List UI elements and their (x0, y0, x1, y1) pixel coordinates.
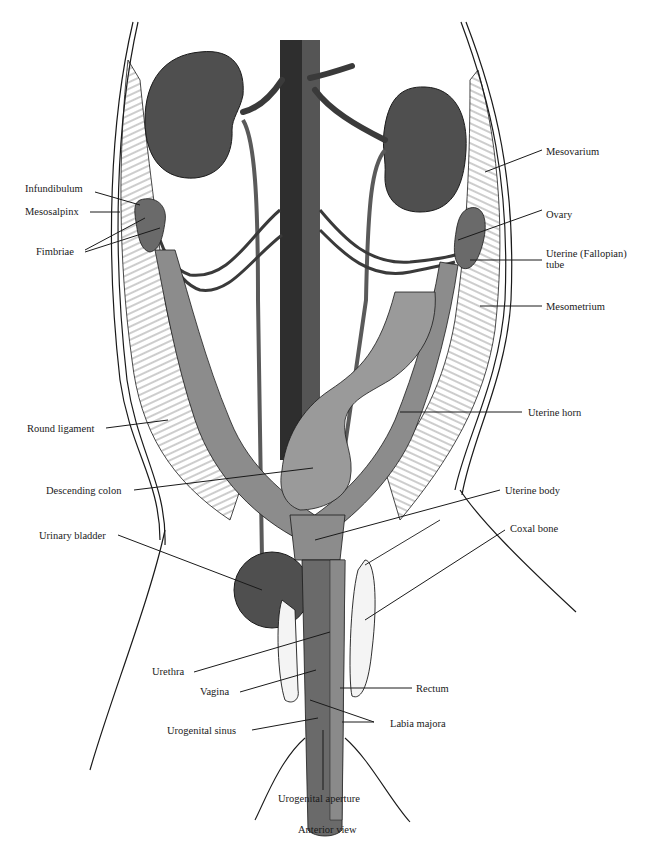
label-infundibulum: Infundibulum (25, 183, 83, 194)
leader-urinary-bladder (118, 535, 262, 590)
urinary-bladder (234, 552, 310, 628)
label-mesometrium: Mesometrium (546, 301, 605, 312)
coxal-bone-right (350, 560, 375, 697)
anatomical-drawing (0, 0, 654, 852)
coxal-bone-right-shaft (365, 520, 440, 565)
label-mesovarium: Mesovarium (546, 146, 599, 157)
label-coxal-bone: Coxal bone (510, 523, 558, 534)
vena-cava (302, 40, 320, 460)
label-uterine-horn: Uterine horn (528, 407, 581, 418)
uterine-body (290, 515, 345, 560)
kidney-right (383, 87, 466, 212)
label-labia-majora: Labia majora (390, 718, 446, 729)
leader-coxal-bone (365, 530, 505, 620)
label-urogenital-aperture: Urogenital aperture (278, 793, 360, 804)
label-uterine-tube-line1: Uterine (Fallopian) (546, 248, 627, 259)
coxal-bone-left (278, 600, 298, 702)
label-rectum: Rectum (416, 683, 449, 694)
label-descending-colon: Descending colon (46, 485, 122, 496)
label-mesosalpinx: Mesosalpinx (25, 206, 79, 217)
kidney-left (145, 52, 243, 179)
label-urinary-bladder: Urinary bladder (39, 530, 106, 541)
label-ovary: Ovary (546, 209, 572, 220)
label-round-ligament: Round ligament (27, 423, 94, 434)
label-uterine-body: Uterine body (505, 485, 560, 496)
label-urogenital-sinus: Urogenital sinus (167, 725, 236, 736)
label-uterine-tube-line2: tube (546, 259, 564, 270)
label-urethra: Urethra (152, 666, 184, 677)
caption-view: Anterior view (298, 824, 357, 835)
label-vagina: Vagina (200, 686, 229, 697)
label-fimbriae: Fimbriae (36, 246, 74, 257)
aorta (280, 40, 304, 460)
